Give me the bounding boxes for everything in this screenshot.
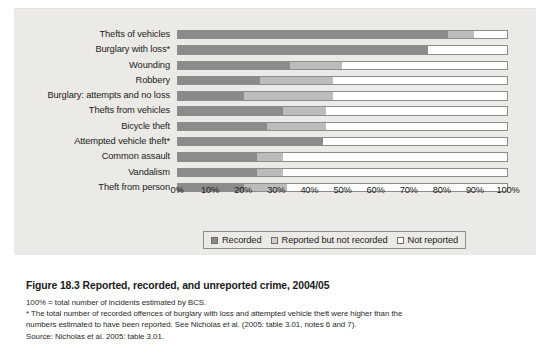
bar-row-label: Burglary: attempts and no loss: [14, 91, 177, 100]
bar-row-label: Vandalism: [14, 168, 177, 177]
legend-label: Recorded: [222, 235, 262, 245]
bar-row: Burglary with loss*: [14, 42, 536, 57]
bar-row: Robbery: [14, 73, 536, 88]
legend-label: Reported but not recorded: [282, 235, 388, 245]
figure-title: Figure 18.3 Reported, recorded, and unre…: [26, 280, 526, 291]
bar-track: [177, 122, 508, 131]
chart-plot-area: Thefts of vehiclesBurglary with loss*Wou…: [14, 27, 536, 202]
bar-track: [177, 106, 508, 115]
bar-segment-not-reported: [283, 153, 507, 160]
bar-row: Common assault: [14, 149, 536, 164]
bar-segment-reported-not-recorded: [257, 169, 283, 176]
bar-segment-recorded: [178, 169, 257, 176]
bar-segment-recorded: [178, 77, 260, 84]
bar-row-label: Bicycle theft: [14, 122, 177, 131]
x-axis-ticks: 0%10%20%30%40%50%60%70%80%90%100%: [177, 185, 508, 199]
bar-track: [177, 45, 508, 54]
bar-row-label: Thefts of vehicles: [14, 30, 177, 39]
bar-track: [177, 91, 508, 100]
x-axis-tick-label: 100%: [497, 185, 520, 195]
x-axis-tick-label: 10%: [201, 185, 219, 195]
bar-segment-recorded: [178, 31, 448, 38]
bar-segment-reported-not-recorded: [260, 77, 332, 84]
bar-track: [177, 168, 508, 177]
bar-row: Vandalism: [14, 165, 536, 180]
bar-segment-recorded: [178, 138, 323, 145]
bar-segment-recorded: [178, 153, 257, 160]
bar-segment-reported-not-recorded: [448, 31, 474, 38]
x-axis-tick-label: 90%: [466, 185, 484, 195]
bar-segment-not-reported: [326, 123, 507, 130]
x-axis-tick-label: 0%: [170, 185, 183, 195]
figure-title-text: Reported, recorded, and unreported crime…: [83, 280, 330, 291]
bar-segment-reported-not-recorded: [290, 62, 343, 69]
x-axis-tick-label: 50%: [333, 185, 351, 195]
x-axis: 0%10%20%30%40%50%60%70%80%90%100%: [177, 185, 522, 199]
bar-segment-recorded: [178, 92, 244, 99]
bar-segment-not-reported: [326, 107, 507, 114]
bar-track: [177, 30, 508, 39]
bar-row-label: Wounding: [14, 61, 177, 70]
legend-item: Not reported: [397, 235, 458, 245]
figure-note-3: numbers estimated to have been reported.…: [26, 319, 526, 330]
bar-segment-not-reported: [333, 92, 507, 99]
bar-segment-not-reported: [333, 77, 507, 84]
bar-row: Attempted vehicle theft*: [14, 134, 536, 149]
x-axis-tick-label: 60%: [367, 185, 385, 195]
figure-note-2: * The total number of recorded offences …: [26, 308, 526, 319]
bar-segment-not-reported: [342, 62, 507, 69]
bar-segment-not-reported: [283, 169, 507, 176]
bar-track: [177, 137, 508, 146]
bar-row: Burglary: attempts and no loss: [14, 88, 536, 103]
bar-row: Thefts of vehicles: [14, 27, 536, 42]
chart-panel: Thefts of vehiclesBurglary with loss*Wou…: [14, 8, 536, 255]
bar-row-label: Attempted vehicle theft*: [14, 137, 177, 146]
bar-segment-reported-not-recorded: [267, 123, 326, 130]
bar-segment-not-reported: [428, 46, 507, 53]
bar-track: [177, 152, 508, 161]
bar-row-label: Robbery: [14, 76, 177, 85]
legend-swatch-icon: [211, 237, 218, 244]
figure-page: Thefts of vehiclesBurglary with loss*Wou…: [0, 0, 550, 355]
legend-label: Not reported: [408, 235, 458, 245]
figure-note-1: 100% = total number of incidents estimat…: [26, 297, 526, 308]
x-axis-tick-label: 40%: [300, 185, 318, 195]
bar-segment-not-reported: [474, 31, 507, 38]
bar-segment-reported-not-recorded: [244, 92, 333, 99]
chart-legend: RecordedReported but not recordedNot rep…: [203, 231, 466, 249]
x-axis-tick-label: 20%: [234, 185, 252, 195]
bar-segment-recorded: [178, 123, 267, 130]
bar-row: Bicycle theft: [14, 119, 536, 134]
x-axis-tick-label: 30%: [267, 185, 285, 195]
bar-track: [177, 76, 508, 85]
bar-row-label: Common assault: [14, 152, 177, 161]
legend-item: Recorded: [211, 235, 262, 245]
bar-segment-recorded: [178, 107, 283, 114]
bar-segment-recorded: [178, 46, 428, 53]
bar-segment-not-reported: [323, 138, 507, 145]
bar-row-label: Burglary with loss*: [14, 45, 177, 54]
bar-row: Thefts from vehicles: [14, 103, 536, 118]
legend-swatch-icon: [271, 237, 278, 244]
legend-swatch-icon: [397, 237, 404, 244]
bar-track: [177, 61, 508, 70]
legend-item: Reported but not recorded: [271, 235, 388, 245]
figure-caption: Figure 18.3 Reported, recorded, and unre…: [26, 280, 526, 342]
figure-number: Figure 18.3: [26, 280, 80, 291]
bar-segment-recorded: [178, 62, 290, 69]
bar-row-label: Thefts from vehicles: [14, 106, 177, 115]
figure-source: Source: Nicholas et al. 2005: table 3.01…: [26, 331, 526, 342]
x-axis-tick-label: 70%: [400, 185, 418, 195]
bar-row: Wounding: [14, 58, 536, 73]
x-axis-tick-label: 80%: [433, 185, 451, 195]
bar-segment-reported-not-recorded: [283, 107, 326, 114]
bar-segment-reported-not-recorded: [257, 153, 283, 160]
bar-row-label: Theft from person: [14, 183, 177, 192]
